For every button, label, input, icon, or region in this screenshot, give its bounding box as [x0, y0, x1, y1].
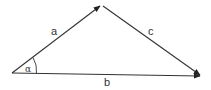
- vector-triangle-diagram: α a c b: [0, 0, 211, 90]
- vector-a-label: a: [51, 25, 58, 37]
- vector-c: [103, 6, 200, 75]
- vector-c-label: c: [148, 25, 154, 37]
- angle-alpha-arc: [33, 58, 37, 74]
- vector-a: [12, 6, 100, 73]
- angle-alpha-label: α: [25, 64, 31, 74]
- vector-b-label: b: [104, 76, 110, 88]
